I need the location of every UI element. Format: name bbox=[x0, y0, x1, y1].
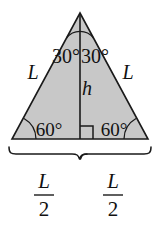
label-base-angle-right: 60° bbox=[101, 119, 128, 140]
geometry-figure: L L 30° 30° h 60° 60° L 2 L 2 bbox=[0, 0, 160, 228]
label-apex-angle-right: 30° bbox=[81, 45, 109, 67]
half-base-right-numerator: L bbox=[106, 169, 119, 193]
brace-right-icon bbox=[81, 147, 152, 159]
label-side-left: L bbox=[26, 61, 38, 83]
triangle-diagram-svg: L L 30° 30° h 60° 60° L 2 L 2 bbox=[0, 0, 160, 228]
label-apex-angle-left: 30° bbox=[52, 45, 80, 67]
half-base-left-denominator: 2 bbox=[39, 197, 50, 221]
half-base-right-denominator: 2 bbox=[108, 197, 119, 221]
brace-left-icon bbox=[9, 147, 87, 159]
label-half-base-right: L 2 bbox=[103, 169, 123, 221]
label-half-base-left: L 2 bbox=[34, 169, 54, 221]
label-base-angle-left: 60° bbox=[36, 119, 63, 140]
label-side-right: L bbox=[121, 61, 133, 83]
half-base-left-numerator: L bbox=[37, 169, 50, 193]
label-altitude: h bbox=[82, 77, 92, 99]
